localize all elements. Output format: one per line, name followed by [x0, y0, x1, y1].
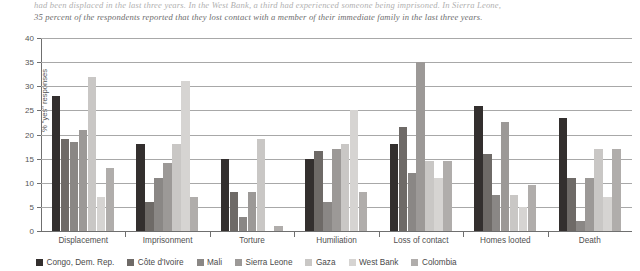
y-tick-mark [37, 62, 41, 63]
legend-swatch-icon [349, 259, 356, 266]
gridline [41, 110, 632, 111]
y-tick-label: 35 [25, 58, 34, 67]
legend-swatch-icon [235, 259, 242, 266]
y-tick-label: 5 [30, 202, 34, 211]
gridline [41, 38, 632, 39]
x-axis-category-labels: DisplacementImprisonmentTortureHumiliati… [41, 236, 632, 250]
y-tick-label: 10 [25, 178, 34, 187]
x-axis-category-label: Humiliation [316, 236, 357, 245]
x-axis-category-label: Torture [239, 236, 264, 245]
y-tick-label: 20 [25, 130, 34, 139]
y-tick-mark [37, 207, 41, 208]
y-tick-mark [37, 183, 41, 184]
gridline [41, 135, 632, 136]
legend-label: Congo, Dem. Rep. [47, 258, 115, 267]
legend-swatch-icon [127, 259, 134, 266]
y-tick-label: 30 [25, 82, 34, 91]
y-tick-mark [37, 38, 41, 39]
legend-swatch-icon [197, 259, 204, 266]
y-tick-label: 0 [30, 227, 34, 236]
legend-label: West Bank [359, 258, 398, 267]
legend-item[interactable]: Congo, Dem. Rep. [36, 258, 114, 267]
gridline [41, 207, 632, 208]
y-tick-label: 15 [25, 154, 34, 163]
x-axis-category-label: Death [579, 236, 601, 245]
legend-item[interactable]: Côte d'Ivoire [127, 258, 183, 267]
x-axis-category-label: Loss of contact [393, 236, 448, 245]
legend-label: Gaza [316, 258, 336, 267]
legend-item[interactable]: Mali [197, 258, 223, 267]
x-axis-category-label: Imprisonment [143, 236, 193, 245]
legend-label: Colombia [422, 258, 457, 267]
plot-area [41, 38, 632, 232]
legend-item[interactable]: Sierra Leone [235, 258, 292, 267]
gridline [41, 62, 632, 63]
legend-item[interactable]: West Bank [349, 258, 399, 267]
legend-label: Mali [207, 258, 222, 267]
x-axis-line [41, 231, 632, 232]
legend-swatch-icon [36, 259, 43, 266]
caption-line-2: 35 percent of the respondents reported t… [34, 12, 606, 24]
y-tick-mark [37, 231, 41, 232]
y-tick-mark [37, 159, 41, 160]
legend-item[interactable]: Colombia [411, 258, 456, 267]
y-tick-mark [37, 110, 41, 111]
legend-label: Sierra Leone [246, 258, 293, 267]
legend-item[interactable]: Gaza [305, 258, 335, 267]
gridline [41, 86, 632, 87]
y-tick-label: 25 [25, 106, 34, 115]
x-axis-category-label: Homes looted [480, 236, 531, 245]
gridline [41, 159, 632, 160]
y-tick-mark [37, 135, 41, 136]
y-tick-label: 40 [25, 34, 34, 43]
legend-swatch-icon [305, 259, 312, 266]
y-axis-tick-labels: 0510152025303540 [0, 38, 34, 232]
gridline [41, 183, 632, 184]
legend-label: Côte d'Ivoire [138, 258, 184, 267]
figure-caption: had been displaced in the last three yea… [34, 0, 606, 23]
y-tick-mark [37, 86, 41, 87]
chart-legend: Congo, Dem. Rep.Côte d'IvoireMaliSierra … [36, 256, 470, 268]
caption-line-1: had been displaced in the last three yea… [34, 0, 606, 12]
x-axis-category-label: Displacement [58, 236, 108, 245]
legend-swatch-icon [411, 259, 418, 266]
